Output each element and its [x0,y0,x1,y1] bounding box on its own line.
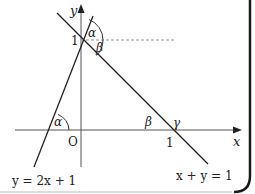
frame-border [0,0,250,192]
line-x-plus-y-equals-1 [57,13,208,164]
x-axis-arrow-icon [233,127,242,134]
angle-label-alpha-bottom: α [54,115,62,129]
x-axis-label: x [233,134,241,149]
line-y-equals-2x-plus-1 [34,16,93,167]
coordinate-diagram: y x O 1 1 α β α β γ y = 2x + 1 x + y = 1 [0,0,255,194]
y-axis-label: y [69,3,78,18]
origin-label: O [68,135,78,149]
y-axis [78,4,85,167]
angle-label-beta-top: β [95,41,103,55]
y-axis-arrow-icon [78,4,85,13]
angle-label-gamma: γ [173,116,181,130]
x-tick-label-1: 1 [166,136,174,150]
equation-label-line-1: y = 2x + 1 [11,174,76,188]
y-tick-label-1: 1 [71,34,79,48]
angle-label-beta-bottom: β [144,115,152,129]
angle-label-alpha-top: α [88,26,96,40]
equation-label-line-2: x + y = 1 [176,169,233,183]
